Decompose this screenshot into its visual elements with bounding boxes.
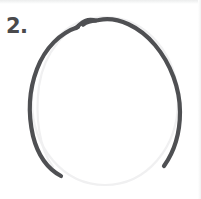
sketch-canvas: 2.	[0, 0, 201, 199]
head-outline-sketch	[0, 0, 201, 199]
faint-construction-inner-arc	[38, 20, 93, 167]
inked-head-outline	[76, 19, 180, 166]
